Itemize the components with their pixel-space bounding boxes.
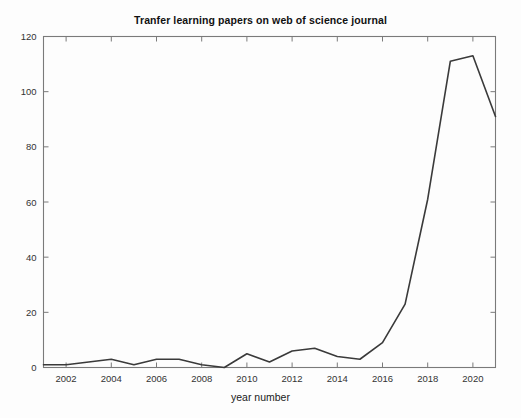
x-tick-label: 2016 xyxy=(372,373,393,384)
x-axis-tick-labels: 2002200420062008201020122014201620182020 xyxy=(56,373,484,384)
line-chart-plot: 2002200420062008201020122014201620182020… xyxy=(0,0,521,418)
x-tick-label: 2020 xyxy=(462,373,483,384)
y-axis-tick-labels: 020406080100120 xyxy=(21,31,37,373)
data-series-papers xyxy=(44,56,496,368)
x-tick-label: 2014 xyxy=(327,373,348,384)
y-tick-label: 20 xyxy=(26,307,37,318)
y-tick-label: 80 xyxy=(26,141,37,152)
y-tick-label: 120 xyxy=(21,31,37,42)
y-tick-label: 40 xyxy=(26,252,37,263)
x-tick-label: 2008 xyxy=(191,373,212,384)
x-tick-label: 2004 xyxy=(101,373,122,384)
figure-canvas: Tranfer learning papers on web of scienc… xyxy=(0,0,521,418)
x-tick-label: 2010 xyxy=(236,373,257,384)
y-tick-label: 100 xyxy=(21,86,37,97)
x-axis-label: year number xyxy=(0,391,521,403)
y-tick-label: 0 xyxy=(31,362,36,373)
x-axis-ticks xyxy=(66,37,473,368)
y-tick-label: 60 xyxy=(26,197,37,208)
x-tick-label: 2006 xyxy=(146,373,167,384)
x-tick-label: 2012 xyxy=(282,373,303,384)
x-tick-label: 2018 xyxy=(417,373,438,384)
x-tick-label: 2002 xyxy=(56,373,77,384)
